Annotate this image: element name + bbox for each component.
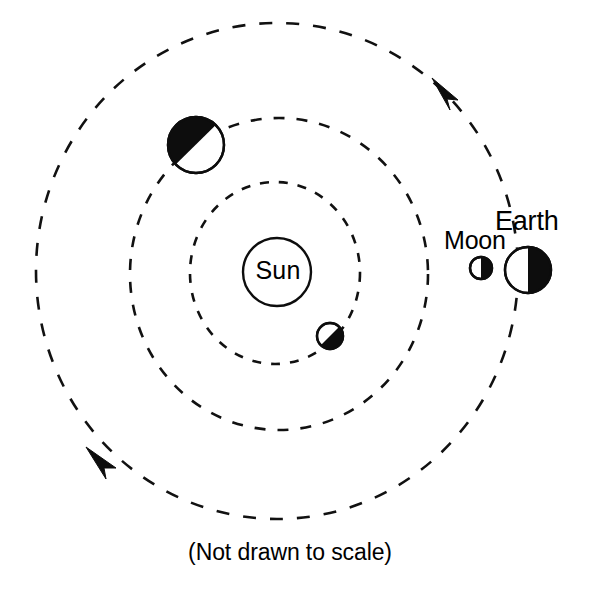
solar-system-diagram: Sun Earth Moon (Not drawn to scale) (0, 0, 595, 594)
middle-planet-body (162, 111, 230, 178)
orbit-direction-arrow-lower-left-icon (86, 447, 116, 479)
not-drawn-to-scale-caption: (Not drawn to scale) (0, 539, 580, 566)
diagram-canvas (0, 0, 595, 594)
sun-label: Sun (0, 256, 556, 285)
orbit-direction-arrow-upper-right-icon (432, 78, 458, 110)
moon-label: Moon (444, 226, 506, 255)
inner-planet-body (312, 312, 354, 354)
